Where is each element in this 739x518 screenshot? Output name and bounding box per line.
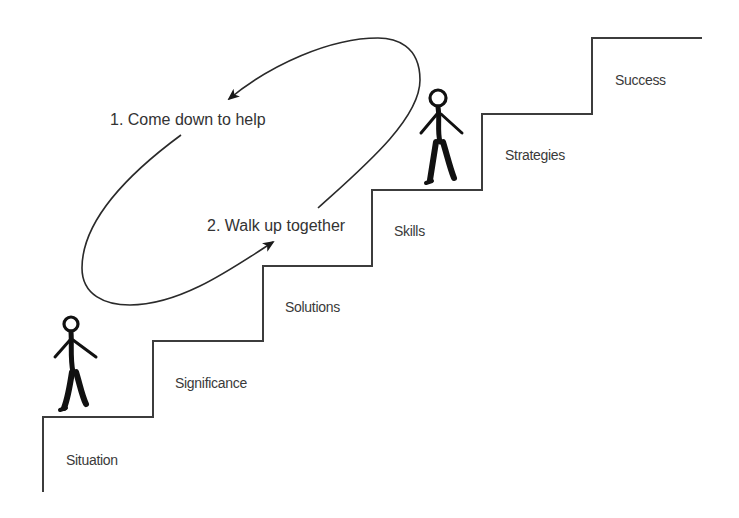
step-label-solutions: Solutions (285, 299, 340, 315)
staircase-diagram: 1. Come down to help 2. Walk up together… (0, 0, 739, 518)
step-label-success: Success (615, 72, 666, 88)
learner-figure-icon (55, 317, 96, 410)
staircase-outline (43, 38, 702, 492)
helper-figure-icon (421, 90, 462, 183)
step-label-skills: Skills (394, 223, 425, 239)
step-label-significance: Significance (175, 375, 247, 391)
step-label-situation: Situation (66, 452, 118, 468)
walk-up-label: 2. Walk up together (207, 217, 346, 234)
step-label-strategies: Strategies (505, 147, 565, 163)
come-down-label: 1. Come down to help (110, 111, 266, 128)
